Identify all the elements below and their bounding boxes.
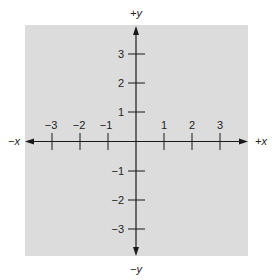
neg-y-label: −y: [130, 263, 143, 275]
x-tick-label: 3: [217, 119, 223, 131]
x-tick-label: 1: [161, 119, 167, 131]
y-tick-label: 2: [118, 77, 124, 89]
y-tick-label: −3: [111, 223, 124, 235]
x-tick-label: 2: [189, 119, 195, 131]
neg-x-label: −x: [8, 135, 20, 147]
x-tick-label: −3: [45, 119, 58, 131]
x-tick-label: −1: [100, 119, 113, 131]
pos-x-label: +x: [255, 135, 267, 147]
y-tick-label: 3: [118, 48, 124, 60]
x-tick-label: −2: [73, 119, 86, 131]
coordinate-plane: +y −y −x +x −3 −2 −1 1 2 3 3 2 1 −1 −2 −…: [0, 0, 277, 280]
y-tick-label: 1: [118, 106, 124, 118]
y-tick-label: −1: [111, 165, 124, 177]
pos-y-label: +y: [130, 7, 143, 19]
y-tick-label: −2: [111, 194, 124, 206]
